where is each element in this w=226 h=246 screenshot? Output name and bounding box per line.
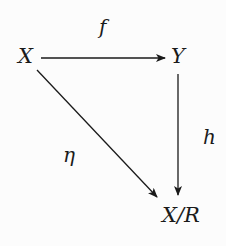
arrow-eta bbox=[37, 70, 157, 197]
node-quotient: X/R bbox=[162, 205, 200, 226]
label-h: h bbox=[203, 127, 216, 147]
commutative-diagram: X Y X/R f h η bbox=[0, 0, 226, 246]
label-eta: η bbox=[63, 145, 75, 165]
node-x: X bbox=[18, 46, 33, 67]
label-f: f bbox=[99, 17, 106, 37]
node-y: Y bbox=[171, 46, 185, 67]
